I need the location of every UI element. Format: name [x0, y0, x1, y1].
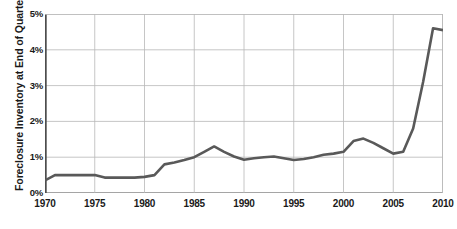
x-tick-label: 2000	[321, 198, 367, 210]
x-tick-label: 1970	[22, 198, 68, 210]
x-axis-tick-labels: 197019751980198519901995200020052010	[0, 0, 457, 229]
x-tick-label: 1975	[72, 198, 118, 210]
x-tick-label: 1995	[271, 198, 317, 210]
x-tick-label: 2010	[420, 198, 457, 210]
x-tick-label: 1985	[171, 198, 217, 210]
x-tick-label: 1990	[221, 198, 267, 210]
x-tick-label: 2005	[370, 198, 416, 210]
foreclosure-inventory-line-chart: Foreclosure Inventory at End of Quarter …	[0, 0, 457, 229]
x-tick-label: 1980	[122, 198, 168, 210]
